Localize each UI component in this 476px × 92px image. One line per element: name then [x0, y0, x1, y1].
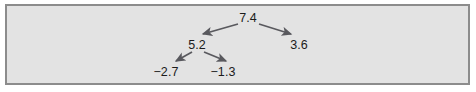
- tree-node-n_1_3: −1.3: [210, 66, 235, 79]
- tree-edge-n5_2-to-n_2_7: [176, 52, 192, 61]
- tree-edge-root-to-n5_2: [203, 24, 238, 34]
- tree-edge-root-to-n3_6: [259, 24, 291, 34]
- figure-root: 7.45.23.6−2.7−1.3: [0, 0, 476, 92]
- tree-node-root: 7.4: [239, 12, 257, 25]
- tree-node-n3_6: 3.6: [290, 39, 308, 52]
- tree-node-n_2_7: −2.7: [153, 66, 178, 79]
- tree-diagram-canvas: [0, 0, 476, 92]
- tree-node-n5_2: 5.2: [188, 39, 206, 52]
- tree-edge-n5_2-to-n_1_3: [204, 52, 226, 61]
